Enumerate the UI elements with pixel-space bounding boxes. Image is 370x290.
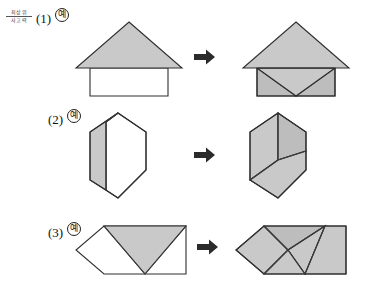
- brand-line-top: 최상위: [6, 10, 32, 15]
- brand-line-bottom: 사고력: [6, 18, 32, 23]
- row2-before-right-region: [106, 113, 146, 198]
- worksheet-page: 최상위 사고력 (1)예: [0, 0, 370, 290]
- brand-stamp: 최상위 사고력: [6, 10, 32, 24]
- row-number-2: (2): [48, 112, 63, 127]
- right-arrow-icon: [194, 148, 215, 163]
- figure-row1-before: [70, 16, 188, 96]
- row1-before-roof-triangle: [76, 22, 182, 68]
- example-badge-1: 예: [55, 8, 69, 22]
- row1-before-square: [90, 68, 168, 96]
- figure-row3-after: [230, 222, 352, 280]
- arrow-row2: [193, 146, 217, 168]
- row-label-1: (1)예: [36, 8, 69, 27]
- right-arrow-icon: [194, 50, 215, 65]
- arrow-row1: [193, 48, 217, 70]
- row-number-1: (1): [36, 11, 51, 26]
- row-label-2: (2)예: [48, 109, 81, 128]
- figure-row2-after: [238, 108, 318, 203]
- figure-row3-before: [70, 222, 192, 280]
- arrow-row3: [196, 238, 220, 260]
- row-number-3: (3): [48, 225, 63, 240]
- figure-row2-before: [78, 108, 158, 203]
- right-arrow-icon: [197, 240, 218, 255]
- figure-row1-after: [237, 16, 355, 96]
- row1-after-roof-triangle: [243, 22, 349, 68]
